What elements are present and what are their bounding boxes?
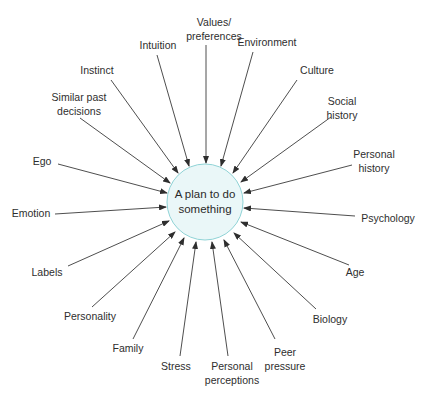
arrow-social-history [241, 117, 331, 182]
factor-label-environment: Environment [238, 35, 297, 49]
factor-label-social-history: Socialhistory [327, 94, 358, 122]
factor-label-stress: Stress [161, 359, 191, 373]
arrow-family [133, 238, 184, 339]
factor-label-line1: Psychology [361, 211, 415, 225]
factor-label-instinct: Instinct [80, 63, 113, 77]
factor-label-line1: Age [346, 265, 365, 279]
factor-label-line2: preferences [186, 29, 241, 43]
arrow-labels [68, 221, 169, 266]
factor-label-labels: Labels [32, 265, 63, 279]
arrow-personality [92, 232, 175, 307]
arrow-age [241, 222, 349, 265]
factor-label-line2: history [353, 161, 394, 175]
factor-label-line1: Values/ [186, 15, 241, 29]
factor-label-line1: Emotion [12, 206, 51, 220]
center-label-line1: A plan to do [175, 187, 236, 202]
center-label-line2: something [175, 202, 236, 217]
factor-label-biology: Biology [313, 312, 347, 326]
factor-label-line1: Personal [205, 359, 259, 373]
arrow-intuition [157, 55, 189, 166]
factor-label-line1: Similar past [52, 90, 107, 104]
factor-label-line1: Personality [64, 309, 116, 323]
factor-label-line1: Biology [313, 312, 347, 326]
arrow-culture [233, 80, 297, 173]
factor-label-values-preferences: Values/preferences [186, 15, 241, 43]
arrow-environment [221, 52, 253, 166]
factor-label-culture: Culture [300, 63, 334, 77]
factor-label-line1: Intuition [140, 38, 177, 52]
factor-label-intuition: Intuition [140, 38, 177, 52]
factor-label-line1: Labels [32, 265, 63, 279]
factor-label-psychology: Psychology [361, 211, 415, 225]
factor-label-line1: Environment [238, 35, 297, 49]
arrow-ego [58, 164, 167, 193]
factor-label-line1: Ego [33, 154, 52, 168]
influence-diagram: A plan to do something Values/preference… [0, 0, 430, 401]
factor-label-line1: Peer [265, 345, 306, 359]
factor-label-family: Family [113, 341, 144, 355]
factor-label-age: Age [346, 265, 365, 279]
center-node-label: A plan to do something [175, 187, 236, 217]
factor-label-line2: history [327, 108, 358, 122]
factor-label-line1: Social [327, 94, 358, 108]
arrow-emotion [55, 207, 166, 214]
arrow-stress [180, 242, 196, 356]
factor-label-line1: Stress [161, 359, 191, 373]
arrow-personal-history [244, 165, 352, 193]
factor-label-personal-history: Personalhistory [353, 147, 394, 175]
factor-label-similar-past-decisions: Similar pastdecisions [52, 90, 107, 118]
factor-label-emotion: Emotion [12, 206, 51, 220]
factor-label-personal-perceptions: Personalperceptions [205, 359, 259, 387]
factor-label-line2: decisions [52, 104, 107, 118]
factor-label-line1: Personal [353, 147, 394, 161]
arrow-psychology [244, 208, 355, 216]
factor-label-line2: perceptions [205, 373, 259, 387]
arrow-peer-pressure [224, 240, 275, 339]
factor-label-personality: Personality [64, 309, 116, 323]
arrow-personal-perceptions [212, 242, 228, 356]
factor-label-line1: Culture [300, 63, 334, 77]
factor-label-line1: Instinct [80, 63, 113, 77]
factor-label-peer-pressure: Peerpressure [265, 345, 306, 373]
factor-label-ego: Ego [33, 154, 52, 168]
factor-label-line1: Family [113, 341, 144, 355]
arrow-biology [234, 233, 316, 309]
factor-label-line2: pressure [265, 359, 306, 373]
